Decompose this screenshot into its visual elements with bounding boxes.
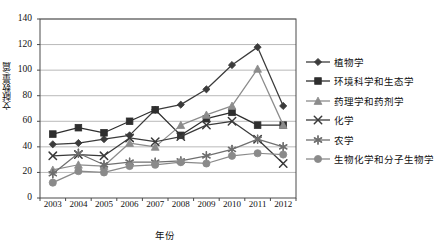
legend-label: 环境科学和生态学 — [334, 74, 414, 88]
marker-circle — [75, 168, 82, 175]
legend-item-5[interactable]: 生物化学和分子生物学 — [305, 150, 430, 170]
series-line — [53, 139, 283, 174]
marker-square — [254, 122, 261, 129]
legend-item-2[interactable]: 药理学和药剂学 — [305, 91, 430, 111]
marker-diamond — [280, 102, 287, 109]
marker-square — [152, 106, 159, 113]
marker-circle — [280, 151, 287, 158]
series-2 — [49, 65, 287, 173]
marker-diamond — [100, 136, 107, 143]
x-axis-title: 年份 — [40, 228, 290, 242]
marker-circle — [152, 161, 159, 168]
legend-label: 农学 — [334, 133, 354, 147]
marker-diamond — [177, 101, 184, 108]
marker-circle — [314, 156, 321, 163]
legend-marker-square-icon — [305, 74, 331, 88]
marker-square — [75, 124, 82, 131]
x-tick-label: 2012 — [268, 200, 298, 209]
legend-marker-diamond-icon — [305, 55, 331, 69]
legend-marker-asterisk-icon — [305, 133, 331, 147]
marker-diamond — [75, 139, 82, 146]
marker-square — [315, 78, 322, 85]
marker-circle — [254, 150, 261, 157]
legend-label: 生物化学和分子生物学 — [334, 152, 434, 166]
marker-triangle — [177, 121, 185, 128]
marker-circle — [177, 159, 184, 166]
marker-circle — [203, 160, 210, 167]
marker-square — [101, 129, 108, 136]
marker-square — [229, 109, 236, 116]
legend-item-3[interactable]: 化学 — [305, 111, 430, 131]
marker-circle — [49, 179, 56, 186]
legend-marker-circle-icon — [305, 152, 331, 166]
legend-label: 药理学和药剂学 — [334, 94, 404, 108]
series-line — [53, 110, 283, 136]
marker-circle — [228, 152, 235, 159]
legend-marker-triangle-icon — [305, 94, 331, 108]
marker-circle — [126, 162, 133, 169]
legend-item-0[interactable]: 植物学 — [305, 52, 430, 72]
marker-triangle — [254, 65, 262, 72]
marker-circle — [100, 169, 107, 176]
marker-diamond — [314, 58, 321, 65]
legend-label: 植物学 — [334, 55, 364, 69]
marker-square — [50, 131, 57, 138]
chart-legend: 植物学环境科学和生态学药理学和药剂学化学农学生物化学和分子生物学 — [305, 52, 430, 169]
legend-item-1[interactable]: 环境科学和生态学 — [305, 72, 430, 92]
marker-square — [126, 118, 133, 125]
legend-label: 化学 — [334, 113, 354, 127]
marker-triangle — [228, 102, 236, 109]
legend-marker-x-icon — [305, 113, 331, 127]
marker-triangle — [203, 111, 211, 118]
legend-item-4[interactable]: 农学 — [305, 130, 430, 150]
